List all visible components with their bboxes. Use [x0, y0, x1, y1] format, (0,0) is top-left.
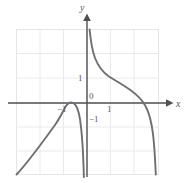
- origin-label: 0: [89, 92, 94, 101]
- y-tick-label-1: 1: [78, 74, 83, 83]
- y-axis-label: y: [80, 3, 84, 13]
- x-axis-label: x: [176, 99, 180, 109]
- x-tick-label-1: 1: [107, 105, 112, 114]
- x-tick-label-minus-1: −1: [57, 105, 67, 114]
- y-tick-label-minus-1: −1: [89, 115, 99, 124]
- graph-figure: y x 0 1 −1 −1 1: [0, 0, 184, 183]
